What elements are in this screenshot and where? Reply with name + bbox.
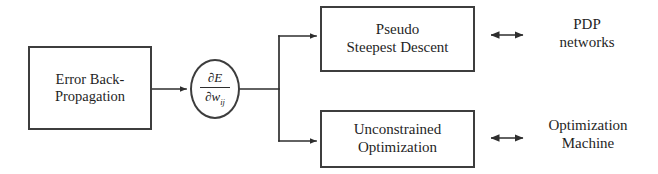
- node-error-back-propagation-line1: Error Back-: [56, 71, 125, 88]
- gradient-denominator: ∂wij: [203, 89, 227, 107]
- gradient-denominator-subscript: ij: [220, 97, 225, 107]
- diagram-canvas: Error Back- Propagation ∂E ∂wij Pseudo S…: [0, 0, 658, 174]
- label-pdp-networks-line2: networks: [528, 34, 646, 52]
- gradient-fraction: ∂E ∂wij: [200, 71, 230, 107]
- node-unconstrained-optimization-line1: Unconstrained: [354, 121, 441, 139]
- node-error-back-propagation-line2: Propagation: [55, 88, 125, 105]
- label-pdp-networks-line1: PDP: [528, 16, 646, 34]
- node-unconstrained-optimization[interactable]: Unconstrained Optimization: [320, 110, 475, 168]
- node-error-back-propagation[interactable]: Error Back- Propagation: [28, 46, 152, 130]
- node-pseudo-steepest-descent-line2: Steepest Descent: [346, 39, 448, 57]
- gradient-numerator: ∂E: [206, 71, 224, 86]
- label-optimization-machine-line1: Optimization: [524, 117, 652, 135]
- label-optimization-machine-line2: Machine: [524, 135, 652, 153]
- node-unconstrained-optimization-line2: Optimization: [358, 139, 437, 157]
- node-pseudo-steepest-descent-line1: Pseudo: [376, 21, 419, 39]
- label-pdp-networks: PDP networks: [528, 16, 646, 51]
- node-pseudo-steepest-descent[interactable]: Pseudo Steepest Descent: [320, 6, 475, 72]
- double-headed-arrow-icon-top: [487, 27, 527, 43]
- node-gradient-ellipse[interactable]: ∂E ∂wij: [190, 59, 240, 119]
- double-headed-arrow-icon-bottom: [487, 130, 527, 146]
- label-optimization-machine: Optimization Machine: [524, 117, 652, 152]
- fraction-bar: [200, 87, 230, 89]
- gradient-denominator-symbol: ∂w: [205, 89, 220, 104]
